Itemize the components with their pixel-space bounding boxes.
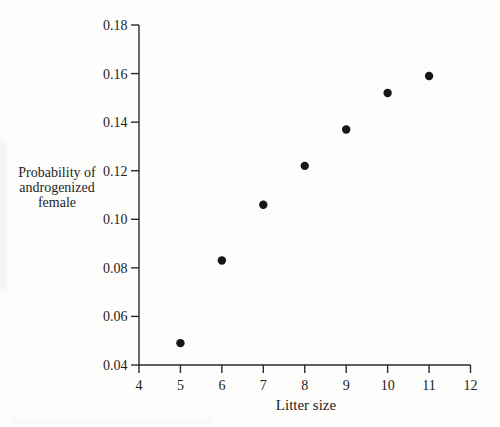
y-axis-title: Probability of androgenized female — [5, 165, 109, 210]
y-tick-label: 0.06 — [103, 309, 128, 324]
y-tick-label: 0.14 — [103, 115, 128, 130]
x-axis-title: Litter size — [235, 397, 377, 414]
y-tick-label: 0.10 — [103, 212, 128, 227]
data-point — [383, 89, 391, 97]
x-tick-label: 7 — [260, 378, 267, 393]
x-tick-label: 10 — [381, 378, 395, 393]
x-tick-label: 9 — [343, 378, 350, 393]
y-tick-label: 0.18 — [103, 18, 128, 33]
y-tick-label: 0.04 — [103, 358, 128, 373]
data-point — [342, 125, 350, 133]
x-tick-label: 11 — [422, 378, 435, 393]
data-point — [259, 201, 267, 209]
scatter-plot-figure: 0.040.060.080.100.120.140.160.1845678910… — [0, 0, 500, 427]
x-tick-label: 4 — [136, 378, 143, 393]
x-tick-label: 5 — [177, 378, 184, 393]
scatter-plot-canvas: 0.040.060.080.100.120.140.160.1845678910… — [0, 0, 500, 427]
data-point — [176, 339, 184, 347]
data-point — [301, 162, 309, 170]
data-point — [218, 256, 226, 264]
x-tick-label: 6 — [218, 378, 225, 393]
x-tick-label: 12 — [464, 378, 478, 393]
y-tick-label: 0.16 — [103, 67, 128, 82]
x-tick-label: 8 — [301, 378, 308, 393]
data-point — [425, 72, 433, 80]
y-tick-label: 0.08 — [103, 261, 128, 276]
